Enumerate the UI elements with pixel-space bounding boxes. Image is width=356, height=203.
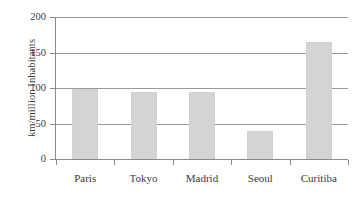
bar: [131, 92, 157, 159]
x-tick-mark-1: [114, 160, 115, 165]
gridline-0: [56, 159, 348, 160]
x-tick-mark-3: [231, 160, 232, 165]
bar: [306, 42, 332, 159]
x-tick-mark-5: [348, 160, 349, 165]
bar: [189, 92, 215, 159]
bar: [72, 89, 98, 159]
y-tick-mark-200: [50, 17, 55, 18]
y-tick-label-0: 0: [6, 154, 46, 164]
y-tick-label-200: 200: [6, 12, 46, 22]
y-tick-mark-150: [50, 53, 55, 54]
x-tick-mark-2: [173, 160, 174, 165]
y-tick-mark-50: [50, 124, 55, 125]
gridline-200: [56, 17, 348, 18]
y-tick-mark-0: [50, 159, 55, 160]
x-tick-mark-4: [290, 160, 291, 165]
bar-chart: km/million Inhabitants 050100150200 Pari…: [0, 0, 356, 203]
plot-area: [56, 17, 348, 159]
gridline-100: [56, 88, 348, 89]
y-tick-label-150: 150: [6, 48, 46, 58]
y-tick-label-100: 100: [6, 83, 46, 93]
x-tick-label-curitiba: Curitiba: [279, 171, 356, 185]
bar: [247, 131, 273, 159]
x-tick-mark-0: [56, 160, 57, 165]
gridline-150: [56, 53, 348, 54]
y-tick-mark-100: [50, 88, 55, 89]
y-tick-label-50: 50: [6, 119, 46, 129]
